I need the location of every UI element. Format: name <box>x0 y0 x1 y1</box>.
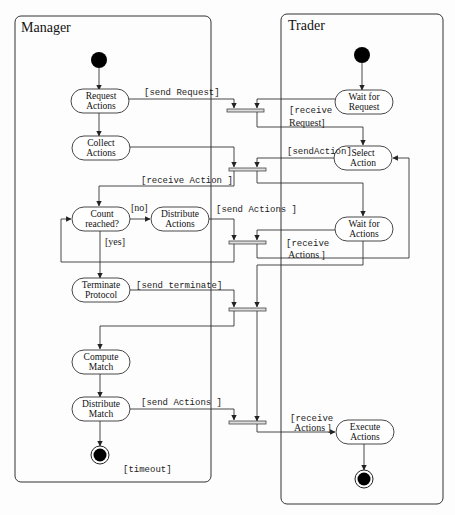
guard-no: [no] <box>131 202 148 213</box>
trader-initial-node-icon <box>354 47 370 63</box>
manager-final-node-icon <box>91 446 109 464</box>
sync-bar-4 <box>229 308 266 311</box>
guard-receive-actions-1-line1: [receive <box>286 239 329 249</box>
svg-text:Distribute: Distribute <box>82 399 120 409</box>
node-distribute-actions[interactable]: Distribute Actions <box>151 207 209 231</box>
svg-text:Request: Request <box>86 91 117 101</box>
trader-final-node-icon <box>355 470 373 488</box>
svg-text:Match: Match <box>89 409 114 419</box>
svg-text:Collect: Collect <box>87 138 115 148</box>
svg-text:Terminate: Terminate <box>82 280 120 290</box>
svg-text:Protocol: Protocol <box>85 290 118 300</box>
guard-send-action: [sendAction] <box>287 147 352 157</box>
guard-receive-request-line2: Request] <box>289 117 325 128</box>
sync-bar-1 <box>227 109 264 112</box>
guard-send-actions-2: [send Actions ] <box>141 398 222 408</box>
guard-yes: [yes] <box>105 236 125 247</box>
swimlane-title-trader: Trader <box>288 18 325 33</box>
svg-text:Actions: Actions <box>86 148 116 158</box>
svg-text:Select: Select <box>351 148 375 158</box>
node-execute-actions[interactable]: Execute Actions <box>336 420 394 444</box>
node-wait-for-request[interactable]: Wait for Request <box>335 90 393 114</box>
svg-text:Match: Match <box>89 362 114 372</box>
svg-text:Actions: Actions <box>165 219 195 229</box>
guard-receive-actions-2-line2: Actions ] <box>294 422 331 433</box>
svg-text:Distribute: Distribute <box>161 209 199 219</box>
guard-send-request: [send Request] <box>144 88 220 98</box>
guard-receive-action: [receive Action ] <box>141 176 233 186</box>
node-request-actions[interactable]: Request Actions <box>71 89 129 113</box>
sync-bar-2 <box>229 168 266 171</box>
svg-text:Compute: Compute <box>84 352 119 362</box>
guard-timeout: [timeout] <box>123 465 172 475</box>
guard-receive-request-line1: [receive <box>289 106 332 116</box>
guard-send-actions-1: [send Actions ] <box>216 205 297 215</box>
node-count-reached[interactable]: Count reached? <box>72 207 130 231</box>
svg-text:Execute: Execute <box>350 422 381 432</box>
guard-send-terminate: [send terminate] <box>136 281 222 291</box>
manager-initial-node-icon <box>91 52 107 68</box>
svg-text:Actions: Actions <box>350 432 380 442</box>
node-wait-for-actions[interactable]: Wait for Actions <box>335 217 393 241</box>
svg-text:Action: Action <box>350 158 376 168</box>
svg-text:Actions: Actions <box>349 229 379 239</box>
svg-text:Request: Request <box>349 102 380 112</box>
node-terminate-protocol[interactable]: Terminate Protocol <box>72 278 130 302</box>
node-collect-actions[interactable]: Collect Actions <box>72 136 130 160</box>
node-distribute-match[interactable]: Distribute Match <box>72 397 130 421</box>
activity-diagram: Manager Trader Request Actions Collect A… <box>0 0 455 515</box>
swimlane-title-manager: Manager <box>21 20 71 35</box>
svg-text:Wait for: Wait for <box>348 92 380 102</box>
guard-receive-actions-1-line2: Actions ] <box>288 249 325 260</box>
sync-bar-3 <box>229 241 266 244</box>
svg-text:reached?: reached? <box>85 219 119 229</box>
sync-bar-5 <box>229 421 266 424</box>
svg-text:Actions: Actions <box>86 101 116 111</box>
svg-text:Wait for: Wait for <box>348 219 380 229</box>
node-compute-match[interactable]: Compute Match <box>72 350 130 374</box>
svg-text:Count: Count <box>90 209 114 219</box>
